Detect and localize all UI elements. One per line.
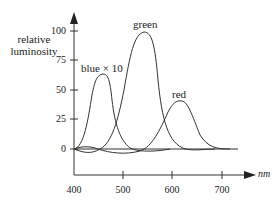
x-axis-arrow-icon [244,171,256,179]
x-tick-600: 600 [157,184,187,195]
label-red: red [172,88,186,100]
x-tick-500: 500 [108,184,138,195]
y-axis-arrow-icon [70,12,78,24]
chart-plot-area [0,0,280,203]
series-blue-curve [74,74,170,151]
y-tick-25: 25 [46,113,66,124]
x-tick-400: 400 [59,184,89,195]
label-green: green [133,18,157,30]
y-tick-50: 50 [46,84,66,95]
label-blue: blue × 10 [81,62,123,74]
series-red-curve [74,101,230,153]
x-tick-700: 700 [207,184,237,195]
y-tick-100: 100 [46,25,66,36]
y-tick-0: 0 [46,143,66,154]
x-axis-unit: nm [258,168,270,179]
luminosity-chart: relative luminosity 100 75 50 25 0 400 5… [0,0,280,203]
y-tick-75: 75 [46,54,66,65]
series-green-curve [74,32,215,152]
